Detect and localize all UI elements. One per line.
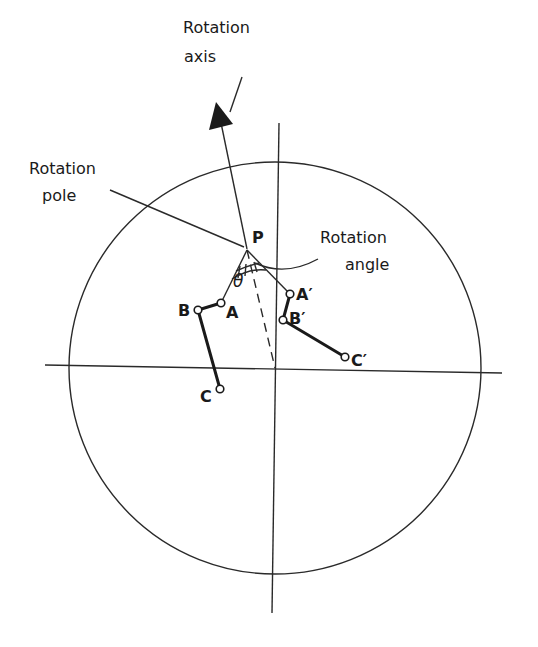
rotation-pole-leader [110,190,244,247]
theta-symbol: θ [233,271,244,291]
point-B-marker [194,306,202,314]
point-C-label: C [200,387,212,406]
horizontal-axis-line [45,365,502,373]
point-B-prime-label: B′ [289,309,305,328]
point-B-label: B [178,301,190,320]
pole-point-label: P [252,228,264,247]
rotation-angle-label-line1: Rotation [320,228,387,247]
angle-tick-2 [245,264,246,276]
pole-to-A-prime-line [247,250,290,294]
vertical-axis-line [272,123,279,613]
rotation-axis-arrowhead [209,102,233,130]
point-C-marker [216,385,224,393]
plate-segment-BC [198,310,220,389]
rotation-axis-label-line2: axis [184,47,216,66]
point-C-prime-marker [341,353,349,361]
point-C-prime-label: C′ [351,351,367,370]
rotation-pole-label-line2: pole [42,186,76,205]
rotation-axis-line [220,118,247,249]
rotation-diagram: Rotation axis Rotation pole Rotation ang… [0,0,538,647]
point-A-prime-marker [286,290,294,298]
point-A-marker [217,299,225,307]
rotation-axis-leader [230,77,242,112]
point-A-label: A [226,303,239,322]
rotation-angle-label-line2: angle [345,255,389,274]
point-A-prime-label: A′ [296,285,313,304]
rotation-pole-label-line1: Rotation [29,159,96,178]
point-B-prime-marker [279,316,287,324]
rotation-axis-label-line1: Rotation [183,18,250,37]
